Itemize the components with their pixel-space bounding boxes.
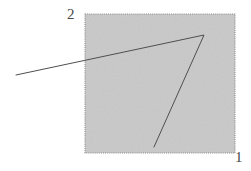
figure-container: 2 1	[0, 0, 251, 171]
axis-label-2: 2	[67, 7, 75, 22]
axis-label-1: 1	[235, 150, 243, 165]
region-texture	[85, 14, 235, 153]
figure-canvas	[0, 0, 251, 171]
